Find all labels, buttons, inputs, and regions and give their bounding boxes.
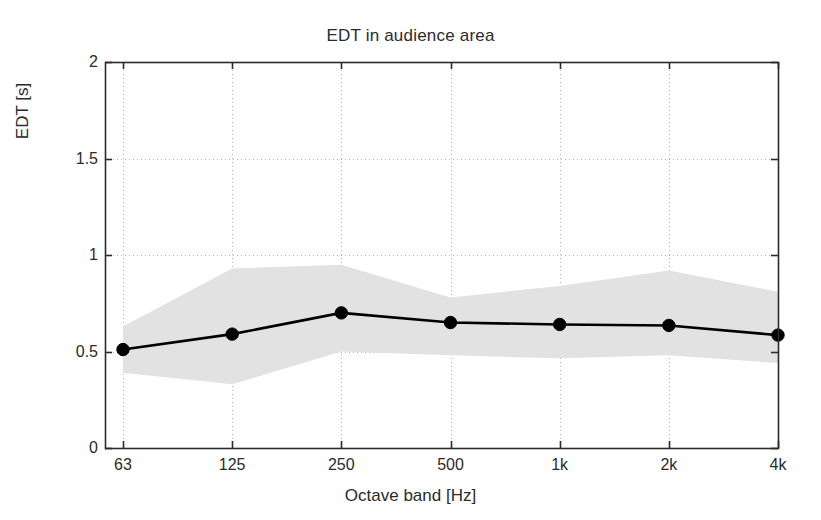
plot-area (0, 0, 821, 520)
chart-figure: EDT in audience area EDT [s] Octave band… (0, 0, 821, 520)
